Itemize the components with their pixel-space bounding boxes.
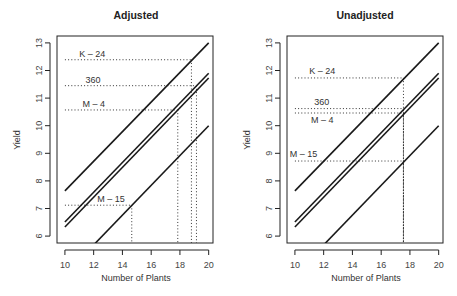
x-tick-label: 16 <box>146 260 156 270</box>
x-tick-label: 18 <box>175 260 185 270</box>
x-tick-label: 14 <box>347 260 357 270</box>
x-tick-label: 20 <box>204 260 214 270</box>
x-tick-label: 16 <box>376 260 386 270</box>
series-label: K – 24 <box>309 66 335 76</box>
y-tick-label: 6 <box>34 234 44 239</box>
annotations: K – 24360M – 4M – 15 <box>79 49 124 204</box>
y-tick-label: 8 <box>264 178 274 183</box>
x-tick-label: 10 <box>60 260 70 270</box>
panel-title: Adjusted <box>114 9 159 21</box>
y-tick-label: 11 <box>264 93 274 102</box>
series-label: M – 15 <box>290 149 318 159</box>
y-axis-label: Yield <box>12 130 22 150</box>
y-tick-label: 7 <box>34 206 44 211</box>
x-tick-label: 12 <box>319 260 329 270</box>
series-label: M – 4 <box>311 115 334 125</box>
x-axis: 101214161820 <box>60 250 214 270</box>
x-tick-label: 10 <box>290 260 300 270</box>
series-label: M – 4 <box>82 99 105 109</box>
plot-area: 101214161820678910111213K – 24360M – 4M … <box>264 36 444 275</box>
y-tick-label: 7 <box>264 206 274 211</box>
x-axis-label: Number of Plants <box>101 273 171 283</box>
series-label: M – 15 <box>97 194 125 204</box>
y-axis-label: Yield <box>242 130 252 150</box>
y-tick-label: 10 <box>34 121 44 131</box>
y-tick-label: 8 <box>34 178 44 183</box>
chart-canvas: Adjusted Number of Plants Yield 10121416… <box>0 0 457 296</box>
x-axis: 101214161820 <box>290 250 444 270</box>
series-label: 360 <box>314 97 329 107</box>
plot-area: 101214161820678910111213K – 24360M – 4M … <box>34 36 214 275</box>
y-tick-label: 11 <box>34 93 44 102</box>
x-axis-label: Number of Plants <box>331 273 401 283</box>
y-tick-label: 12 <box>34 65 44 75</box>
y-tick-label: 9 <box>264 151 274 156</box>
x-tick-label: 20 <box>434 260 444 270</box>
series-line-k-24 <box>65 43 209 191</box>
series-label: K – 24 <box>79 49 105 59</box>
y-tick-label: 10 <box>264 121 274 131</box>
panel-adjusted: Adjusted Number of Plants Yield 10121416… <box>12 9 214 283</box>
figure: Adjusted Number of Plants Yield 10121416… <box>0 0 457 296</box>
y-tick-label: 12 <box>264 65 274 75</box>
y-tick-label: 13 <box>264 38 274 48</box>
annotations: K – 24360M – 4M – 15 <box>290 66 335 159</box>
guide-lines <box>65 60 197 243</box>
x-tick-label: 14 <box>117 260 127 270</box>
panel-unadjusted: Unadjusted Number of Plants Yield 101214… <box>242 9 444 283</box>
y-tick-label: 6 <box>264 234 274 239</box>
x-tick-label: 12 <box>89 260 99 270</box>
y-tick-label: 9 <box>34 151 44 156</box>
panel-title: Unadjusted <box>336 9 393 21</box>
series-label: 360 <box>85 75 100 85</box>
x-tick-label: 18 <box>405 260 415 270</box>
y-tick-label: 13 <box>34 38 44 48</box>
y-axis: 678910111213 <box>264 38 280 239</box>
y-axis: 678910111213 <box>34 38 50 239</box>
